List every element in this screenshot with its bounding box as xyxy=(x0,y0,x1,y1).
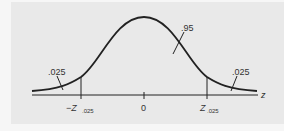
left-critical-subscript: .025 xyxy=(82,108,94,114)
right-tail-area-label: .025 xyxy=(232,67,250,77)
right-critical-label: Z xyxy=(199,103,206,113)
right-critical-subscript: .025 xyxy=(207,108,219,114)
left-critical-label: −Z xyxy=(66,103,77,113)
center-label: 0 xyxy=(141,103,146,113)
center-area-label: .95 xyxy=(181,23,194,33)
normal-curve-diagram: .95 .025 .025 z 0 −Z .025 Z .025 xyxy=(0,0,284,131)
left-tail-area-label: .025 xyxy=(48,67,66,77)
axis-label: z xyxy=(260,90,266,100)
bell-curve xyxy=(32,17,257,91)
